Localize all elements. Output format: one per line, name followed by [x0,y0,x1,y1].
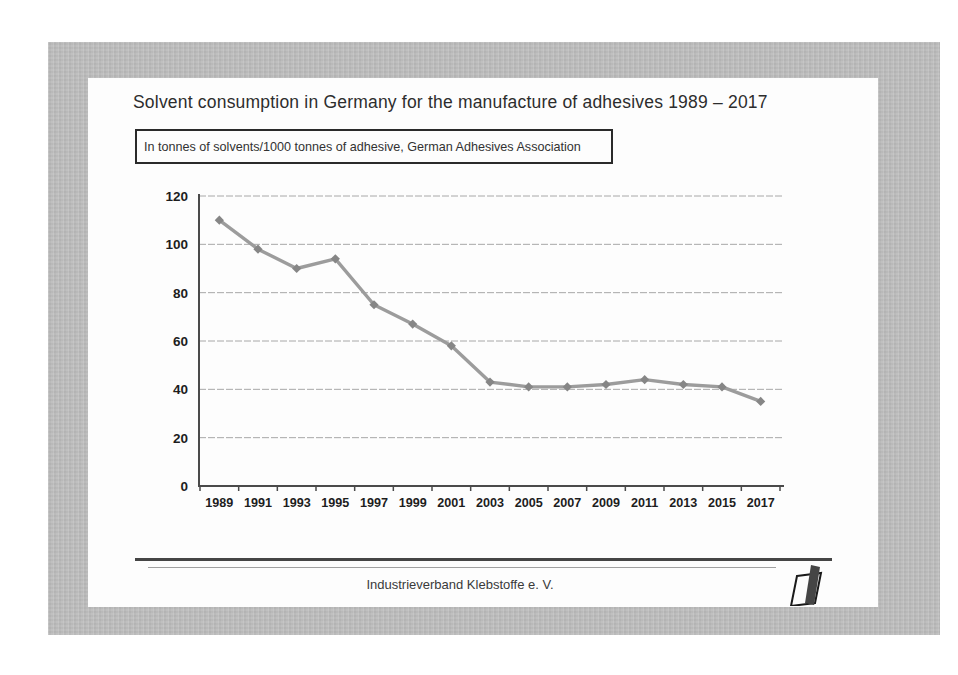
data-point-marker [640,375,649,384]
line-chart: 0204060801001201989199119931995199719992… [88,173,878,538]
x-axis-tick-label: 2017 [747,496,775,510]
y-axis-tick-label: 20 [173,431,188,446]
y-axis-tick-label: 80 [173,286,188,301]
data-point-marker [563,382,572,391]
data-point-marker [679,380,688,389]
footer-divider-thick [135,558,832,561]
scan-border-frame: Solvent consumption in Germany for the m… [48,42,940,635]
x-axis-tick-label: 2013 [669,496,697,510]
footer-divider-thin [148,567,776,568]
data-point-marker [601,380,610,389]
x-axis-tick-label: 1997 [360,496,388,510]
data-point-marker [756,397,765,406]
data-point-marker [524,382,533,391]
x-axis-tick-label: 2007 [553,496,581,510]
data-point-marker [717,382,726,391]
x-axis-tick-label: 2011 [631,496,658,510]
footer-organization: Industrieverband Klebstoffe e. V. [88,577,832,592]
y-axis-tick-label: 60 [173,334,188,349]
line-chart-svg: 0204060801001201989199119931995199719992… [88,173,878,538]
slide: Solvent consumption in Germany for the m… [88,78,878,607]
x-axis-tick-label: 2003 [476,496,504,510]
chart-title: Solvent consumption in Germany for the m… [133,92,853,113]
chart-subtitle: In tonnes of solvents/1000 tonnes of adh… [144,140,581,154]
y-axis-tick-label: 100 [165,237,188,252]
x-axis-tick-label: 1993 [283,496,311,510]
x-axis-tick-label: 2001 [437,496,465,510]
x-axis-tick-label: 1991 [244,496,272,510]
x-axis-tick-label: 1999 [399,496,427,510]
x-axis-tick-label: 1989 [205,496,233,510]
y-axis-tick-label: 120 [165,189,188,204]
series-line [219,220,760,401]
x-axis-tick-label: 2005 [515,496,543,510]
ivk-logo [788,564,832,606]
x-axis-tick-label: 2015 [708,496,736,510]
y-axis-tick-label: 40 [173,382,188,397]
x-axis-tick-label: 2009 [592,496,620,510]
y-axis-tick-label: 0 [180,479,188,494]
chart-subtitle-box: In tonnes of solvents/1000 tonnes of adh… [135,129,613,164]
x-axis-tick-label: 1995 [321,496,349,510]
